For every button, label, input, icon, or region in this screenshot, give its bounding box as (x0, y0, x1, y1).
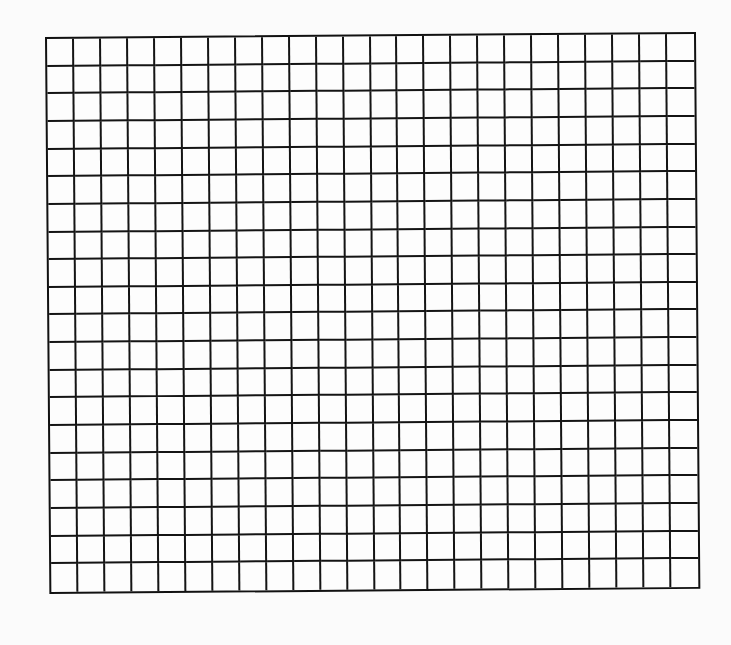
grid-cell (455, 450, 482, 478)
grid-cell (454, 423, 481, 451)
grid-cell (264, 258, 291, 286)
grid-cell (293, 507, 320, 535)
grid-cell (346, 313, 373, 341)
grid-cell (105, 564, 132, 592)
grid-cell (182, 121, 209, 149)
grid-cell (588, 283, 615, 311)
grid-cell (563, 560, 590, 588)
grid-cell (49, 232, 76, 260)
grid-cell (184, 342, 211, 370)
grid-cell (266, 507, 293, 535)
grid-cell (562, 339, 589, 367)
grid-cell (374, 534, 401, 562)
grid-cell (454, 367, 481, 395)
grid-cell (51, 509, 78, 537)
grid-cell (47, 66, 74, 94)
grid-cell (290, 92, 317, 120)
grid-cell (266, 479, 293, 507)
grid-cell (186, 563, 213, 591)
grid-cell (101, 38, 128, 66)
grid-cell (429, 561, 456, 589)
grid-cell (347, 424, 374, 452)
grid-cell (428, 506, 455, 534)
grid-cell (535, 394, 562, 422)
grid-cell (128, 93, 155, 121)
grid-cell (318, 230, 345, 258)
grid-cell (480, 201, 507, 229)
grid-cell (344, 92, 371, 120)
grid-cell (614, 200, 641, 228)
grid-cell (453, 201, 480, 229)
grid-cell (104, 453, 131, 481)
grid-cell (560, 118, 587, 146)
grid-cell (399, 202, 426, 230)
grid-cell (402, 561, 429, 589)
grid-cell (128, 66, 155, 94)
grid-cell (182, 93, 209, 121)
grid-cell (267, 562, 294, 590)
grid-cell (399, 257, 426, 285)
grid-cell (292, 286, 319, 314)
grid-cell (184, 259, 211, 287)
grid-cell (128, 38, 155, 66)
grid-cell (562, 367, 589, 395)
grid-cell (456, 561, 483, 589)
grid-cell (49, 343, 76, 371)
grid-cell (236, 65, 263, 93)
grid-cell (452, 174, 479, 202)
grid-cell (132, 536, 159, 564)
grid-cell (587, 200, 614, 228)
grid-cell (481, 340, 508, 368)
grid-cell (155, 93, 182, 121)
grid-cell (265, 314, 292, 342)
grid-cell (102, 232, 129, 260)
grid-cell (291, 147, 318, 175)
grid-cell (427, 312, 454, 340)
grid-cell (317, 147, 344, 175)
grid-cell (48, 149, 75, 177)
grid-cell (587, 90, 614, 118)
grid-cell (185, 508, 212, 536)
grid-cell (425, 63, 452, 91)
grid-cell (186, 535, 213, 563)
grid-cell (371, 147, 398, 175)
grid-cell (263, 92, 290, 120)
grid-cell (155, 121, 182, 149)
grid-cell (482, 505, 509, 533)
grid-cell (212, 452, 239, 480)
grid-cell (102, 121, 129, 149)
grid-cell (452, 119, 479, 147)
grid-cell (452, 146, 479, 174)
grid-cell (589, 449, 616, 477)
grid-cell (237, 176, 264, 204)
grid-cell (293, 424, 320, 452)
grid-cell (51, 564, 78, 592)
grid-cell (453, 229, 480, 257)
grid-cell (398, 64, 425, 92)
grid-cell (317, 120, 344, 148)
grid-cell (50, 426, 77, 454)
grid-cell (319, 368, 346, 396)
grid-cell (101, 66, 128, 94)
grid-cell (400, 423, 427, 451)
grid-cell (374, 423, 401, 451)
grid-cell (505, 63, 532, 91)
grid-cell (209, 38, 236, 66)
grid-cell (347, 451, 374, 479)
grid-cell (292, 341, 319, 369)
grid-cell (290, 65, 317, 93)
grid-cell (562, 449, 589, 477)
grid-cell (509, 478, 536, 506)
grid-cell (509, 505, 536, 533)
grid-cell (293, 452, 320, 480)
grid-cell (103, 315, 130, 343)
grid-cell (372, 202, 399, 230)
grid-cell (371, 119, 398, 147)
grid-cell (129, 149, 156, 177)
grid-cell (401, 506, 428, 534)
grid-cell (374, 506, 401, 534)
grid-cell (482, 561, 509, 589)
grid-cell (239, 424, 266, 452)
grid-cell (479, 118, 506, 146)
grid-cell (509, 561, 536, 589)
